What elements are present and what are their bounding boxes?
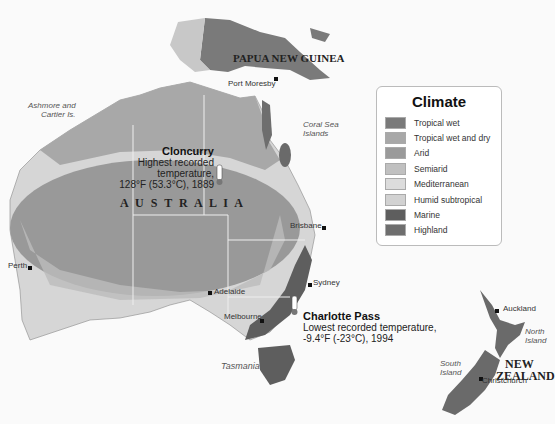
city-port-moresby: Port Moresby xyxy=(228,80,276,89)
legend-label: Mediterranean xyxy=(414,179,469,189)
legend-label: Marine xyxy=(414,210,440,220)
city-dot-adelaide xyxy=(208,291,212,295)
legend-label: Tropical wet xyxy=(414,118,460,128)
city-adelaide: Adelaide xyxy=(214,288,245,297)
callout-charlotte-pass: Charlotte Pass Lowest recorded temperatu… xyxy=(303,310,436,344)
label-south-line2: Island xyxy=(440,369,461,378)
legend-swatch xyxy=(385,209,406,221)
city-perth: Perth xyxy=(8,262,27,271)
legend-swatch xyxy=(385,147,406,159)
legend-title: Climate xyxy=(385,93,493,110)
label-australia: A U S T R A L I A xyxy=(120,196,245,211)
label-north-island: North Island xyxy=(525,328,546,346)
legend-item: Arid xyxy=(385,146,493,161)
legend-label: Arid xyxy=(414,148,429,158)
callout-charlotte-line1: Lowest recorded temperature, xyxy=(303,322,436,333)
legend-swatch xyxy=(385,178,406,190)
callout-cloncurry-line1: Highest recorded temperature, xyxy=(88,157,214,179)
legend-label: Semiarid xyxy=(414,164,448,174)
label-coral-sea: Coral Sea Islands xyxy=(303,121,339,139)
legend-item: Humid subtropical xyxy=(385,192,493,207)
legend-swatch xyxy=(385,117,406,129)
thermometer-cold-icon xyxy=(292,296,298,315)
city-sydney: Sydney xyxy=(313,279,340,288)
legend-item: Mediterranean xyxy=(385,177,493,192)
legend-swatch xyxy=(385,194,406,206)
label-ashmore-line2: Cartier Is. xyxy=(28,111,76,120)
legend-item: Semiarid xyxy=(385,161,493,176)
callout-cloncurry-line2: 128°F (53.3°C), 1889 xyxy=(88,179,214,190)
legend-item: Tropical wet and dry xyxy=(385,130,493,145)
city-dot-auckland xyxy=(495,309,499,313)
city-melbourne: Melbourne xyxy=(224,313,262,322)
city-dot-brisbane xyxy=(322,226,326,230)
legend-label: Humid subtropical xyxy=(414,195,482,205)
legend-label: Highland xyxy=(414,225,448,235)
city-christchurch: Christchurch xyxy=(482,377,527,386)
label-papua-new-guinea: PAPUA NEW GUINEA xyxy=(233,52,344,64)
label-coral-line2: Islands xyxy=(303,130,339,139)
label-north-line2: Island xyxy=(525,337,546,346)
city-dot-sydney xyxy=(308,283,312,287)
thermometer-hot-icon xyxy=(217,165,223,185)
callout-charlotte-title: Charlotte Pass xyxy=(303,310,436,322)
legend-swatch xyxy=(385,132,406,144)
legend-item: Marine xyxy=(385,207,493,222)
australia-shape xyxy=(10,82,315,340)
city-auckland: Auckland xyxy=(503,305,536,314)
tasmania-shape xyxy=(258,345,295,385)
legend-label: Tropical wet and dry xyxy=(414,133,490,143)
callout-charlotte-line2: -9.4°F (-23°C), 1994 xyxy=(303,333,436,344)
city-dot-perth xyxy=(28,266,32,270)
legend-swatch xyxy=(385,163,406,175)
callout-cloncurry: Cloncurry Highest recorded temperature, … xyxy=(88,145,214,190)
callout-cloncurry-title: Cloncurry xyxy=(88,145,214,157)
legend-item: Tropical wet xyxy=(385,115,493,130)
label-south-island: South Island xyxy=(440,360,461,378)
papua-new-guinea-shape xyxy=(170,18,330,80)
city-brisbane: Brisbane xyxy=(290,222,322,231)
label-ashmore: Ashmore and Cartier Is. xyxy=(28,102,76,120)
label-tasmania: Tasmania xyxy=(221,362,260,372)
climate-legend: Climate Tropical wet Tropical wet and dr… xyxy=(376,86,502,246)
legend-item: Highland xyxy=(385,223,493,238)
legend-swatch xyxy=(385,224,406,236)
